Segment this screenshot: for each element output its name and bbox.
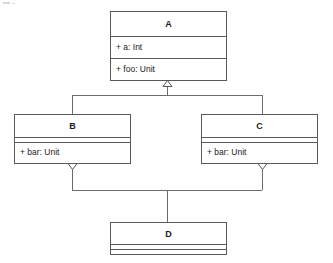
uml-class-diagram-canvas: A + a: Int + foo: Unit B + bar: Unit C +… <box>0 0 333 263</box>
uml-class-a[interactable]: A + a: Int + foo: Unit <box>110 11 227 81</box>
class-b-name: B <box>15 115 130 137</box>
uml-class-d[interactable]: D <box>110 222 227 255</box>
edge-b-riser <box>72 95 73 114</box>
class-d-operations <box>111 249 226 254</box>
edge-bus-top <box>72 95 262 96</box>
class-c-operations: + bar: Unit <box>202 142 317 162</box>
class-a-attribute-0: + a: Int <box>116 43 142 52</box>
class-a-name: A <box>111 12 226 36</box>
class-d-name-label: D <box>165 229 172 239</box>
class-b-operations: + bar: Unit <box>15 142 130 162</box>
scan-artifact <box>3 2 10 4</box>
edge-c-riser <box>262 95 263 114</box>
class-c-operation-0: + bar: Unit <box>207 148 246 157</box>
scan-artifact <box>12 3 15 4</box>
class-c-name: C <box>202 115 317 137</box>
uml-class-b[interactable]: B + bar: Unit <box>14 114 131 164</box>
edge-b-stub <box>72 169 73 190</box>
uml-class-c[interactable]: C + bar: Unit <box>201 114 318 164</box>
class-a-operations: + foo: Unit <box>111 58 226 80</box>
edge-d-riser <box>167 190 168 222</box>
class-a-name-label: A <box>165 19 172 29</box>
class-d-name: D <box>111 223 226 244</box>
class-b-name-label: B <box>69 121 76 131</box>
class-b-operation-0: + bar: Unit <box>20 148 59 157</box>
edge-c-stub <box>262 169 263 190</box>
class-a-attributes: + a: Int <box>111 36 226 58</box>
class-c-name-label: C <box>256 121 263 131</box>
class-a-operation-0: + foo: Unit <box>116 65 155 74</box>
